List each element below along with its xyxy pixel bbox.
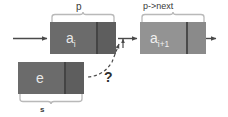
node-current[interactable]: ai <box>50 22 116 54</box>
diagram-canvas <box>0 0 228 117</box>
node-new-pointer-cell <box>66 62 84 94</box>
label-question-mark: ? <box>104 70 113 84</box>
label-pointer-p: p <box>76 2 82 12</box>
node-next[interactable]: ai+1 <box>140 22 206 54</box>
node-new-data: e <box>36 70 44 86</box>
node-current-pointer-cell <box>98 22 116 54</box>
node-next-pointer-cell <box>188 22 206 54</box>
brace-p <box>52 12 114 22</box>
node-current-data: a <box>66 30 74 46</box>
label-pointer-p-next: p->next <box>143 2 173 11</box>
node-current-divider <box>96 22 98 54</box>
node-next-divider <box>186 22 188 54</box>
node-new[interactable]: e <box>18 62 84 94</box>
brace-p-next <box>142 12 204 22</box>
label-new-node-s: s <box>40 106 44 114</box>
node-current-label: ai <box>66 31 76 48</box>
node-next-subscript: i+1 <box>158 39 169 49</box>
node-new-divider <box>64 62 66 94</box>
brace-s <box>20 94 82 104</box>
node-new-label: e <box>36 71 44 85</box>
node-current-subscript: i <box>74 39 76 49</box>
node-next-label: ai+1 <box>150 31 169 48</box>
node-next-data: a <box>150 30 158 46</box>
